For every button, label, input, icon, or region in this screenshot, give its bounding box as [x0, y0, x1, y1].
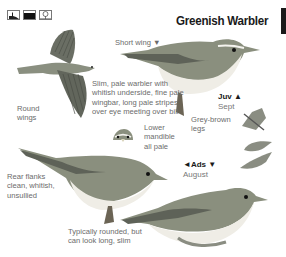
label-rear-flanks: Rear flanks clean, whitish, unsullied	[7, 172, 55, 200]
edge-tab	[281, 8, 286, 34]
water-icon	[23, 10, 36, 20]
age-label-juv: Juv ▲ Sept	[218, 92, 242, 112]
bird-head-detail	[112, 128, 134, 142]
label-description: Slim, pale warbler with whitish undersid…	[92, 79, 184, 117]
label-round-wings: Round wings	[17, 104, 39, 123]
label-lower-mandible: Lower mandible all pale	[144, 123, 175, 151]
habitat-icons	[7, 10, 52, 20]
reedbed-icon	[7, 10, 20, 20]
label-legs: Grey-brown legs	[191, 115, 231, 134]
page-title: Greenish Warbler	[176, 13, 268, 28]
age-label-ads: ◄Ads ▼ August	[183, 160, 216, 180]
label-short-wing: Short wing ▼	[115, 38, 161, 47]
tree-icon	[39, 10, 52, 20]
field-guide-page: Greenish Warbler	[0, 0, 286, 257]
juvenile-sketches	[238, 104, 278, 174]
label-shape: Typically rounded, but can look long, sl…	[68, 227, 142, 246]
